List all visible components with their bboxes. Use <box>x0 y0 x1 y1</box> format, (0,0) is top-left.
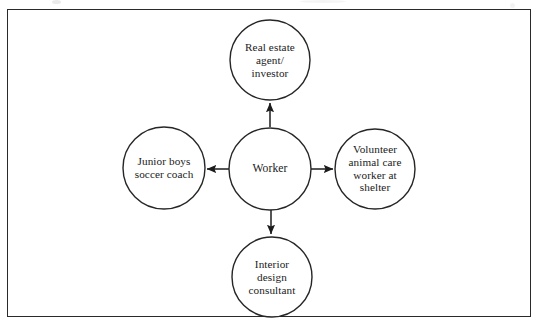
diagram-canvas <box>0 0 539 327</box>
figure-diagram: Worker Real estate agent/ investor Volun… <box>0 0 539 327</box>
node-circle-interior-design-consultant <box>232 237 312 317</box>
node-circle-real-estate-agent-investor <box>230 20 310 100</box>
node-circle-worker <box>229 128 311 210</box>
node-circle-junior-boys-soccer-coach <box>123 127 205 209</box>
node-circle-volunteer-animal-care-worker <box>335 129 415 209</box>
